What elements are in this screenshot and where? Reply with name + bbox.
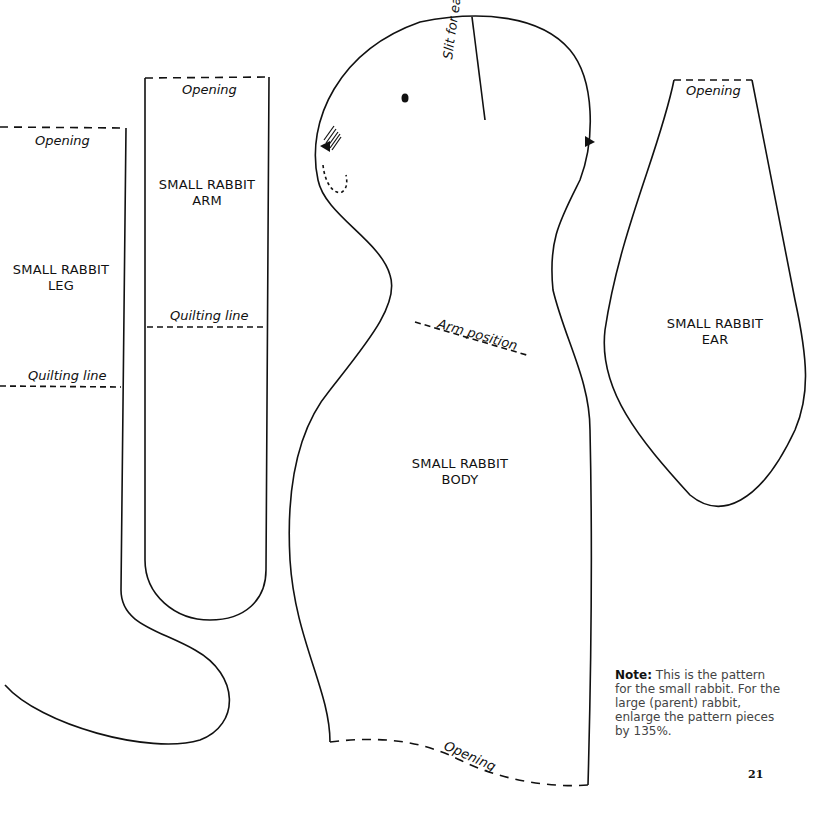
arm-title: SMALL RABBIT ARM [145,177,269,209]
ear-outline [604,80,805,506]
leg-quilting-line [0,386,121,387]
body-title-line1: SMALL RABBIT [395,456,525,472]
ear-opening-label: Opening [686,83,741,98]
leg-outline [5,128,229,744]
body-title: SMALL RABBIT BODY [395,456,525,488]
body-title-line2: BODY [395,472,525,488]
arm-quilting-label: Quilting line [170,308,249,323]
leg-title-line2: LEG [0,278,122,294]
ear-title: SMALL RABBIT EAR [655,316,775,348]
ear-title-line2: EAR [655,332,775,348]
arm-title-line2: ARM [145,193,269,209]
arm-title-line1: SMALL RABBIT [145,177,269,193]
arm-outline [145,77,269,620]
leg-title: SMALL RABBIT LEG [0,262,122,294]
mouth-dashed-curve [323,165,347,193]
ear-slit-line [472,17,485,120]
arm-opening-line [145,77,269,78]
page-number: 21 [748,768,763,781]
notch-marker-left [320,141,330,152]
pattern-note: Note: This is the pattern for the small … [615,668,785,738]
arm-opening-label: Opening [182,82,237,97]
leg-opening-label: Opening [35,133,90,148]
leg-opening-line [0,127,126,128]
leg-quilting-label: Quilting line [28,368,107,383]
leg-title-line1: SMALL RABBIT [0,262,122,278]
eye-dot [402,94,409,103]
ear-title-line1: SMALL RABBIT [655,316,775,332]
note-label: Note: [615,668,652,682]
